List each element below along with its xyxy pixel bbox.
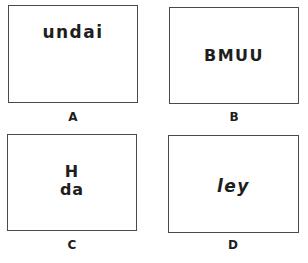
panel-d: ley [168,135,299,233]
panel-c-text: H da [8,163,136,199]
panel-d-caption: D [218,238,248,252]
panel-a: undai [8,5,138,103]
panel-d-text: ley [169,176,298,196]
panel-b-text: BMUU [170,46,298,65]
panel-c: H da [7,134,137,231]
panel-a-caption: A [58,110,88,124]
panel-a-text: undai [9,22,137,42]
panel-c-caption: C [57,238,87,252]
panel-b: BMUU [169,7,299,104]
panel-b-caption: B [219,110,249,124]
